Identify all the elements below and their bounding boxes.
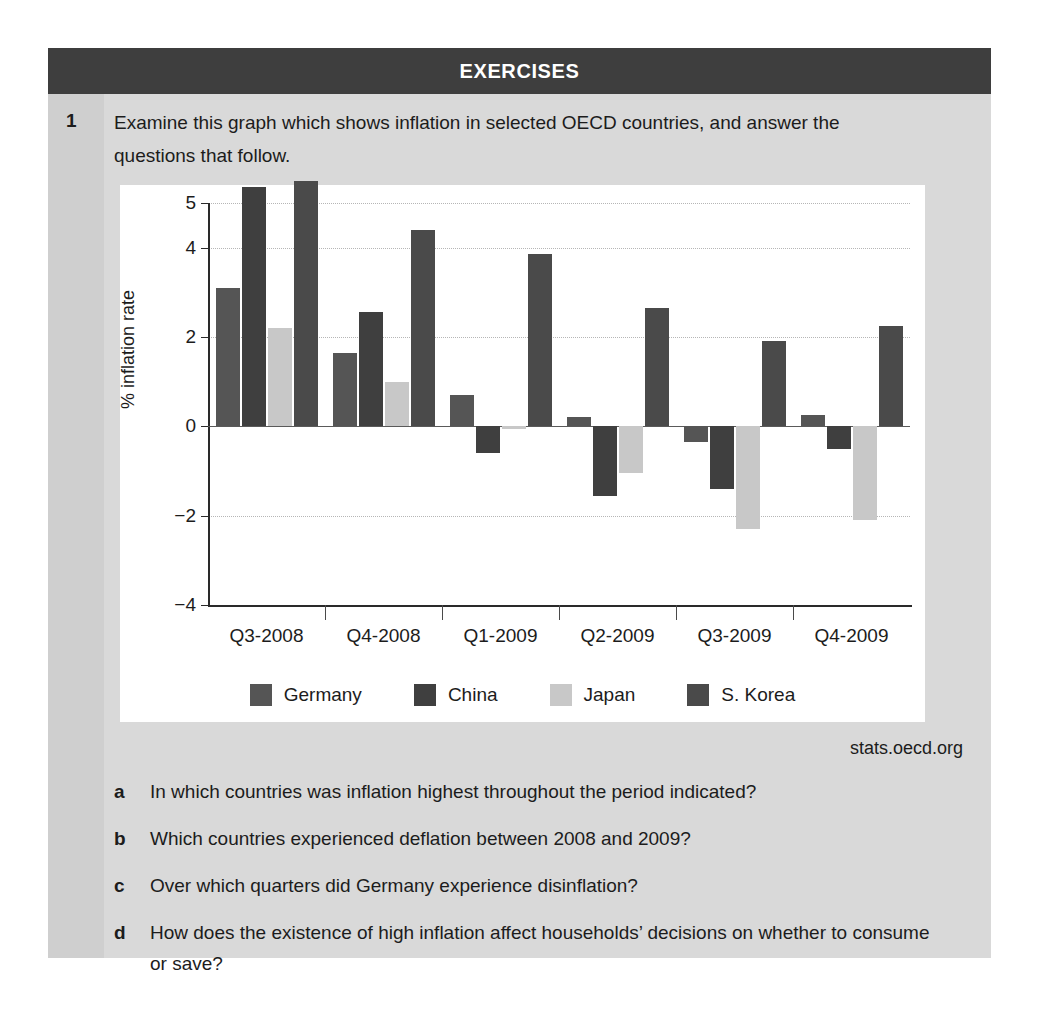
bar-s-korea-q3-2008 bbox=[294, 181, 318, 427]
bar-japan-q4-2009 bbox=[853, 426, 877, 520]
legend-item-japan: Japan bbox=[550, 684, 636, 706]
bar-germany-q4-2008 bbox=[333, 353, 357, 427]
chart-plot-area: 5420−2−4% inflation rateQ3-2008Q4-2008Q1… bbox=[120, 185, 925, 665]
question-marker: a bbox=[114, 776, 125, 807]
y-tick-label: −4 bbox=[162, 594, 196, 616]
bar-japan-q2-2009 bbox=[619, 426, 643, 473]
question-text: How does the existence of high inflation… bbox=[150, 922, 929, 974]
bar-germany-q2-2009 bbox=[567, 417, 591, 426]
question-marker: d bbox=[114, 917, 126, 948]
legend-swatch bbox=[250, 684, 272, 706]
left-gutter bbox=[48, 94, 104, 958]
question-text: In which countries was inflation highest… bbox=[150, 781, 756, 802]
chart-legend: GermanyChinaJapanS. Korea bbox=[120, 684, 925, 706]
x-axis-separator bbox=[559, 605, 560, 620]
x-tick-label-q3-2009: Q3-2009 bbox=[676, 625, 793, 647]
y-tick-label: −2 bbox=[162, 505, 196, 527]
bar-china-q2-2009 bbox=[593, 426, 617, 495]
y-tick-label: 2 bbox=[162, 326, 196, 348]
bar-s-korea-q4-2008 bbox=[411, 230, 435, 427]
bar-germany-q1-2009 bbox=[450, 395, 474, 426]
bar-china-q1-2009 bbox=[476, 426, 500, 453]
x-axis-separator bbox=[325, 605, 326, 620]
bar-germany-q4-2009 bbox=[801, 415, 825, 426]
legend-label: Japan bbox=[584, 684, 636, 706]
x-tick-label-q1-2009: Q1-2009 bbox=[442, 625, 559, 647]
bar-germany-q3-2008 bbox=[216, 288, 240, 426]
questions-list: aIn which countries was inflation highes… bbox=[114, 776, 934, 995]
y-tick-label: 4 bbox=[162, 237, 196, 259]
legend-item-germany: Germany bbox=[250, 684, 362, 706]
page-title: EXERCISES bbox=[460, 60, 580, 83]
x-tick-label-q4-2008: Q4-2008 bbox=[325, 625, 442, 647]
bar-s-korea-q4-2009 bbox=[879, 326, 903, 427]
legend-label: China bbox=[448, 684, 498, 706]
legend-swatch bbox=[414, 684, 436, 706]
legend-item-china: China bbox=[414, 684, 498, 706]
y-tick-mark bbox=[201, 516, 208, 517]
bar-china-q4-2009 bbox=[827, 426, 851, 448]
bar-china-q3-2008 bbox=[242, 187, 266, 426]
y-tick-mark bbox=[201, 203, 208, 204]
page-root: EXERCISES 1 Examine this graph which sho… bbox=[0, 0, 1039, 1032]
question-marker: b bbox=[114, 823, 126, 854]
y-tick-mark bbox=[201, 605, 208, 606]
x-axis-separator bbox=[676, 605, 677, 620]
question-marker: c bbox=[114, 870, 125, 901]
bar-japan-q3-2008 bbox=[268, 328, 292, 426]
bar-china-q3-2009 bbox=[710, 426, 734, 489]
question-b: bWhich countries experienced deflation b… bbox=[114, 823, 934, 854]
exercise-number: 1 bbox=[66, 110, 77, 132]
question-text: Which countries experienced deflation be… bbox=[150, 828, 691, 849]
question-d: dHow does the existence of high inflatio… bbox=[114, 917, 934, 979]
bar-japan-q4-2008 bbox=[385, 382, 409, 427]
y-axis-line bbox=[208, 203, 210, 605]
x-tick-label-q2-2009: Q2-2009 bbox=[559, 625, 676, 647]
bar-s-korea-q1-2009 bbox=[528, 254, 552, 426]
legend-label: Germany bbox=[284, 684, 362, 706]
bar-s-korea-q2-2009 bbox=[645, 308, 669, 426]
legend-swatch bbox=[550, 684, 572, 706]
y-tick-mark bbox=[201, 248, 208, 249]
bar-germany-q3-2009 bbox=[684, 426, 708, 442]
question-text: Over which quarters did Germany experien… bbox=[150, 875, 638, 896]
bar-japan-q1-2009 bbox=[502, 426, 526, 428]
x-tick-label-q3-2008: Q3-2008 bbox=[208, 625, 325, 647]
y-axis-label: % inflation rate bbox=[118, 209, 139, 409]
x-tick-label-q4-2009: Q4-2009 bbox=[793, 625, 910, 647]
chart-source: stats.oecd.org bbox=[850, 738, 963, 759]
x-axis-line bbox=[208, 605, 912, 607]
exercise-box: EXERCISES 1 Examine this graph which sho… bbox=[48, 48, 991, 958]
bar-japan-q3-2009 bbox=[736, 426, 760, 529]
exercise-intro-text: Examine this graph which shows inflation… bbox=[114, 106, 914, 172]
x-axis-separator bbox=[442, 605, 443, 620]
y-tick-mark bbox=[201, 426, 208, 427]
legend-swatch bbox=[687, 684, 709, 706]
legend-label: S. Korea bbox=[721, 684, 795, 706]
x-axis-separator bbox=[793, 605, 794, 620]
legend-item-s-korea: S. Korea bbox=[687, 684, 795, 706]
exercises-header-bar: EXERCISES bbox=[48, 48, 991, 94]
bar-china-q4-2008 bbox=[359, 312, 383, 426]
zero-line bbox=[208, 426, 910, 427]
y-tick-label: 5 bbox=[162, 192, 196, 214]
question-c: cOver which quarters did Germany experie… bbox=[114, 870, 934, 901]
bar-s-korea-q3-2009 bbox=[762, 341, 786, 426]
question-a: aIn which countries was inflation highes… bbox=[114, 776, 934, 807]
y-tick-mark bbox=[201, 337, 208, 338]
y-tick-label: 0 bbox=[162, 415, 196, 437]
gridline bbox=[208, 516, 910, 517]
chart-panel: 5420−2−4% inflation rateQ3-2008Q4-2008Q1… bbox=[120, 185, 925, 722]
